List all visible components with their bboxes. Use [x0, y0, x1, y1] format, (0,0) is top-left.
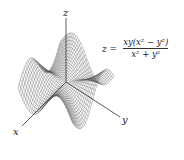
- z-axis-label: z: [63, 8, 68, 18]
- y-axis-label: y: [122, 115, 128, 125]
- equation-lhs: z =: [102, 44, 117, 54]
- surface-equation: z = xy(x² − y²) x² + y²: [102, 38, 168, 60]
- equation-fraction: xy(x² − y²) x² + y²: [123, 38, 168, 60]
- equation-numerator: xy(x² − y²): [123, 38, 168, 47]
- equation-denominator: x² + y²: [131, 50, 160, 59]
- surface-plot: [0, 0, 184, 160]
- x-axis-label: x: [13, 127, 19, 137]
